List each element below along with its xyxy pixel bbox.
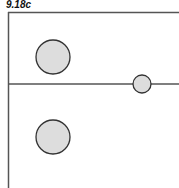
diagram-canvas [0, 0, 179, 188]
lower-large-circle [36, 120, 70, 154]
upper-large-circle [36, 40, 70, 74]
small-circle-on-line [133, 75, 151, 93]
